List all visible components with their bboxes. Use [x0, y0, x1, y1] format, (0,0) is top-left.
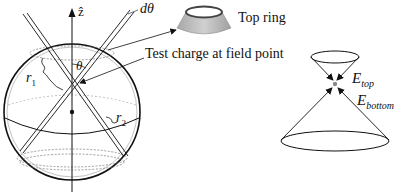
e-bottom-symbol: E — [357, 92, 366, 108]
diagram-canvas — [0, 0, 395, 192]
top-ring-illustration — [177, 7, 231, 35]
d-theta-label: dθ — [140, 1, 154, 17]
z-axis — [69, 8, 76, 192]
cone-lines — [20, 10, 134, 157]
z-axis-label: ẑ — [78, 4, 84, 20]
e-top-subscript: top — [361, 78, 374, 89]
r2-label: r2 — [116, 110, 126, 128]
r2-subscript: 2 — [121, 118, 126, 128]
e-bottom-subscript: bottom — [366, 100, 394, 111]
r1-brace — [42, 58, 63, 90]
test-charge-label: Test charge at field point — [145, 46, 284, 62]
e-top-symbol: E — [352, 70, 361, 86]
theta-label: θ — [76, 58, 82, 74]
e-bottom-label: Ebottom — [357, 92, 394, 111]
sphere-center-dot — [70, 110, 74, 114]
e-top-label: Etop — [352, 70, 374, 89]
field-point — [70, 84, 74, 88]
top-ring-label: Top ring — [238, 10, 286, 26]
r1-label: r1 — [26, 70, 36, 88]
r1-subscript: 1 — [31, 78, 36, 88]
